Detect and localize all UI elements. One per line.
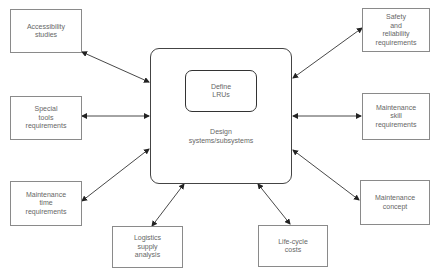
node-label: Special tools requirements (26, 105, 67, 131)
edge-logistics (152, 184, 184, 226)
node-logistics-supply-analysis: Logistics supply analysis (112, 226, 183, 268)
node-label: Logistics supply analysis (134, 234, 161, 260)
node-label: Maintenance time requirements (26, 191, 67, 217)
define-lrus-label: Define LRUs (211, 83, 231, 100)
node-label: Maintenance concept (375, 194, 415, 211)
node-maintenance-time-requirements: Maintenance time requirements (10, 181, 82, 226)
node-special-tools-requirements: Special tools requirements (10, 96, 82, 140)
design-systems-box (150, 48, 292, 184)
define-lrus-box: Define LRUs (185, 70, 257, 112)
edge-accessibility (82, 52, 149, 82)
node-maintenance-skill-requirements: Maintenance skill requirements (362, 93, 430, 140)
design-systems-label: Design systems/subsystems (150, 128, 292, 145)
node-label: Safety and reliability requirements (376, 13, 417, 47)
edge-maintenance-concept (293, 150, 359, 200)
edge-maintenance-time (82, 149, 149, 201)
node-accessibility-studies: Accessibility studies (10, 9, 82, 53)
node-label: Life-cycle costs (278, 238, 308, 255)
edge-life-cycle (258, 184, 290, 224)
node-safety-reliability-requirements: Safety and reliability requirements (362, 8, 430, 52)
node-maintenance-concept: Maintenance concept (360, 180, 430, 225)
edge-safety (293, 28, 362, 78)
node-label: Maintenance skill requirements (376, 104, 417, 130)
node-life-cycle-costs: Life-cycle costs (258, 225, 328, 267)
node-label: Accessibility studies (27, 23, 65, 40)
